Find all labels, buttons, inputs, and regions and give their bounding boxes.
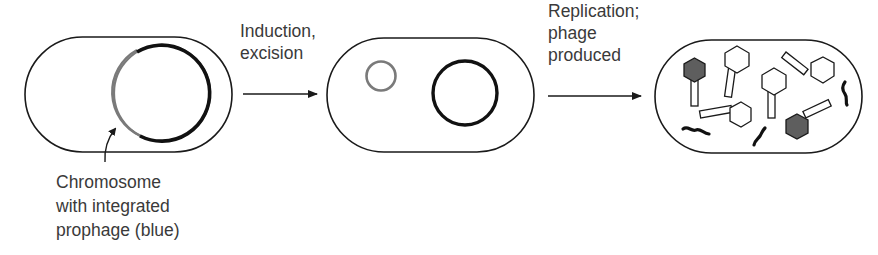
prophage-segment-inner: [137, 50, 166, 136]
caption-line: Chromosome: [56, 170, 180, 194]
phage-empty: [782, 52, 834, 83]
label-line: phage: [548, 22, 639, 44]
dna-fragment: [683, 128, 709, 134]
label-line: Induction,: [240, 20, 316, 42]
dna-fragment: [843, 82, 847, 105]
phage-filled: [684, 58, 705, 106]
phage-empty: [762, 68, 786, 118]
dna-fragment: [754, 128, 765, 145]
pointer-arrow: [105, 129, 115, 162]
cell-lytic: [655, 40, 862, 153]
cell-lysogen: [25, 37, 232, 162]
step-label-induction: Induction, excision: [240, 20, 316, 64]
cell-membrane: [327, 38, 534, 152]
prophage-segment: [112, 50, 141, 136]
cell-induced: [327, 38, 534, 152]
caption-chromosome: Chromosome with integrated prophage (blu…: [56, 170, 180, 242]
label-line: excision: [240, 42, 316, 64]
phage-filled: [786, 100, 831, 139]
caption-line: prophage (blue): [56, 218, 180, 242]
excised-prophage-circle: [367, 62, 396, 91]
bacterial-chromosome-circle: [433, 61, 497, 125]
phage-empty: [725, 46, 749, 97]
phage-empty: [699, 102, 751, 127]
caption-line: with integrated: [56, 194, 180, 218]
cell-membrane: [25, 37, 232, 152]
bacterial-chromosome-segment: [137, 45, 210, 141]
label-line: produced: [548, 44, 639, 66]
label-line: Replication;: [548, 0, 639, 22]
step-label-replication: Replication; phage produced: [548, 0, 639, 66]
